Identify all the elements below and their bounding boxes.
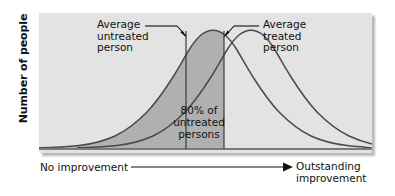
annotation-untreated-line3: person — [97, 42, 149, 54]
annotation-treated-line1: Average — [263, 19, 306, 31]
x-axis-right-label-line2: improvement — [296, 173, 366, 185]
annotation-treated-line3: person — [263, 42, 306, 54]
annotation-percent-line2: untreated — [160, 117, 238, 129]
annotation-average-treated: Average treated person — [263, 19, 306, 54]
annotation-80-percent-untreated: 80% of untreated persons — [160, 105, 238, 140]
y-axis-label: Number of people — [17, 9, 30, 129]
figure-container: Number of people — [0, 0, 395, 196]
x-axis-right-endpoint-label: Outstanding improvement — [296, 161, 366, 185]
annotation-average-untreated: Average untreated person — [97, 19, 149, 54]
annotation-untreated-line1: Average — [97, 19, 149, 31]
annotation-percent-line3: persons — [160, 129, 238, 141]
x-axis-left-endpoint-label: No improvement — [40, 161, 128, 173]
x-axis-direction-arrowhead — [283, 163, 293, 172]
